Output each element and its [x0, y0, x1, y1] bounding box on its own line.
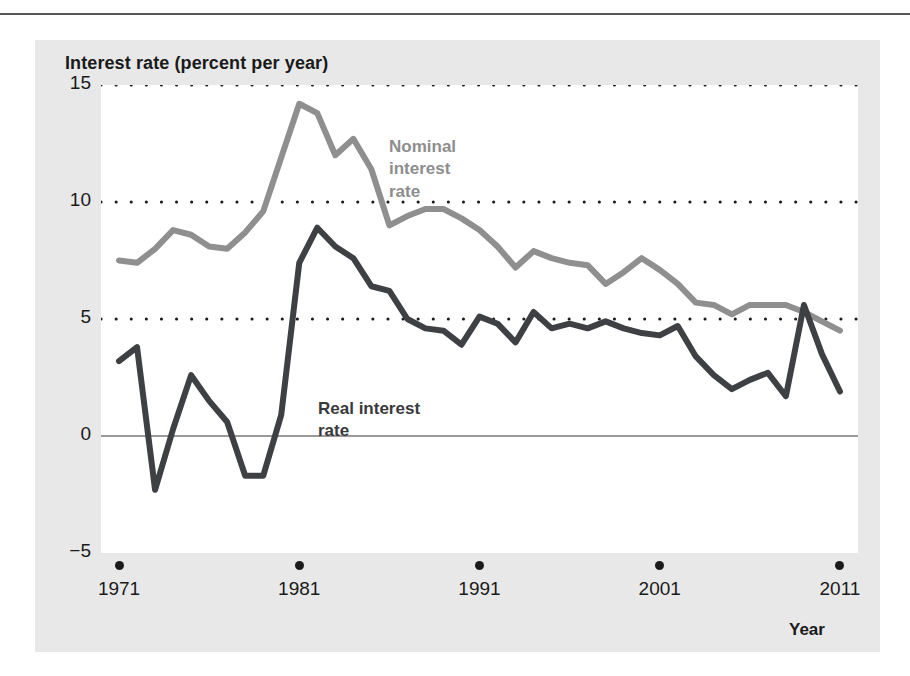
x-axis-tick-label: 1981 [259, 578, 339, 600]
y-axis-tick-label: 5 [47, 306, 91, 328]
gridlines-group [101, 85, 858, 319]
figure-container: Interest rate (percent per year) 151050−… [0, 0, 910, 676]
y-axis-tick-label: 10 [47, 189, 91, 211]
x-axis-tick-label: 1991 [440, 578, 520, 600]
x-axis-tick-label: 2011 [800, 578, 880, 600]
x-axis-tick-marker [295, 561, 304, 570]
x-axis-tick-marker [115, 561, 124, 570]
chart-title: Interest rate (percent per year) [65, 53, 328, 74]
series-line [119, 228, 840, 490]
plot-canvas [101, 85, 858, 553]
y-axis-tick-label: −5 [47, 540, 91, 562]
series-paths-group [119, 104, 840, 490]
y-axis-tick-label: 15 [47, 72, 91, 94]
series-line [119, 104, 840, 331]
x-axis-tick-label: 2001 [620, 578, 700, 600]
y-axis-tick-label: 0 [47, 423, 91, 445]
top-divider-rule [0, 13, 910, 15]
series-label-real: Real interest rate [318, 398, 420, 443]
x-axis-tick-label: 1971 [79, 578, 159, 600]
series-label-nominal: Nominal interest rate [389, 136, 456, 203]
x-axis-title: Year [789, 620, 825, 640]
x-axis-tick-marker [475, 561, 484, 570]
